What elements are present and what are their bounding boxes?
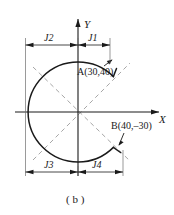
arc-tail-at-a <box>113 69 116 77</box>
point-label-a: A(30,40) <box>77 67 113 77</box>
x-axis <box>15 109 159 114</box>
x-axis-label: X <box>159 114 166 125</box>
x-axis-arrowhead <box>151 109 159 114</box>
dim-arrow-j3-right <box>70 170 78 174</box>
dim-arrow-j4-left <box>78 170 86 174</box>
arc-tail-at-b <box>113 147 120 152</box>
point-label-b: B(40,–30) <box>111 121 152 131</box>
dim-arrow-j4-right <box>115 170 123 174</box>
dimension-label-j2: J2 <box>44 33 53 43</box>
dim-arrow-j1-left <box>78 43 86 47</box>
dimension-label-j1: J1 <box>88 33 97 43</box>
dimension-label-j3: J3 <box>44 160 53 170</box>
y-axis-arrowhead <box>75 19 80 27</box>
y-axis-label: Y <box>84 19 90 30</box>
dim-arrow-j3-left <box>26 170 34 174</box>
dim-arrow-j1-right <box>102 43 110 47</box>
dimension-label-j4: J4 <box>92 160 101 170</box>
dashed-diagonal-nw-se <box>33 67 130 161</box>
figure-caption: ( b ) <box>66 194 84 205</box>
dim-arrow-j2-left <box>26 43 34 47</box>
dim-arrow-j2-right <box>70 43 78 47</box>
circular-interpolation-diagram <box>0 0 174 215</box>
